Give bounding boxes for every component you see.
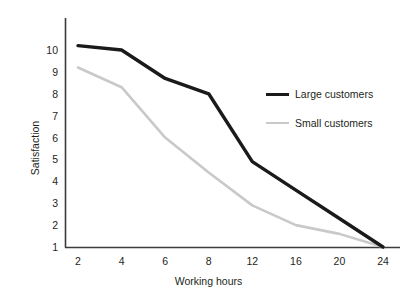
y-tick-8: 8 (36, 89, 58, 100)
y-tick-7: 7 (36, 110, 58, 121)
legend-line-swatch-icon (266, 93, 289, 96)
y-tick-10: 10 (36, 45, 58, 56)
y-tick-9: 9 (36, 67, 58, 78)
x-tick-2: 2 (75, 256, 81, 267)
y-tick-1: 1 (36, 242, 58, 253)
y-tick-2: 2 (36, 220, 58, 231)
x-tick-16: 16 (290, 256, 302, 267)
legend-item-large-customers: Large customers (266, 89, 373, 100)
plot-area (0, 0, 417, 295)
legend-item-small-customers: Small customers (266, 118, 373, 129)
x-tick-4: 4 (119, 256, 125, 267)
series-line-large-customers (78, 46, 383, 247)
x-tick-8: 8 (206, 256, 212, 267)
y-axis-title: Satisfaction (30, 120, 41, 174)
y-tick-3: 3 (36, 198, 58, 209)
legend-line-swatch-icon (266, 122, 289, 124)
x-tick-20: 20 (334, 256, 346, 267)
x-tick-6: 6 (162, 256, 168, 267)
legend-label-small-customers: Small customers (295, 118, 373, 129)
x-tick-24: 24 (377, 256, 389, 267)
y-tick-4: 4 (36, 176, 58, 187)
chart-figure: 10 9 8 7 6 5 4 3 2 1 2 4 6 8 12 16 20 24… (0, 0, 417, 295)
legend-label-large-customers: Large customers (295, 89, 373, 100)
x-axis-title: Working hours (0, 276, 417, 287)
x-tick-12: 12 (246, 256, 258, 267)
